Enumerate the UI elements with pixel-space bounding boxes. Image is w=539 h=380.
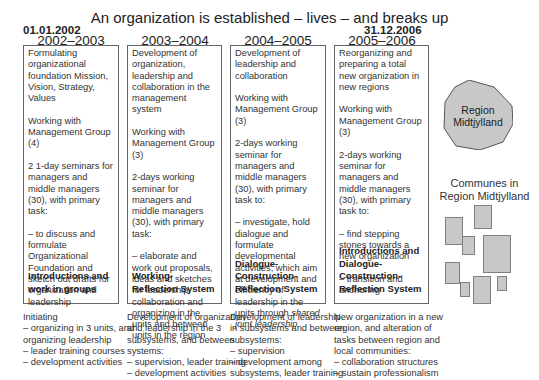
phase-paragraph: 2-days working seminar for managers and … [339, 150, 424, 218]
communes-label: Communes in Region Midtjylland [430, 177, 539, 203]
outcome-text: Development of leadership in subsystems … [230, 312, 334, 380]
outcome-line: systems: [127, 346, 231, 357]
outcome-text: Development of organization and leadersh… [127, 312, 231, 380]
phase-paragraph: Development of organization, leadership … [132, 48, 217, 116]
region-label-line: Region [443, 104, 513, 116]
phase-box: Development of leadership and collaborat… [230, 45, 326, 304]
outcome-line: – supervision [230, 346, 334, 357]
outcome-line: – collaboration structures [334, 357, 438, 368]
phase-paragraph: – to discuss and formulate Organizationa… [28, 229, 114, 308]
phase-paragraph: Development of leadership and collaborat… [235, 48, 321, 82]
system-label: Introductions and work in groups [28, 270, 115, 295]
commune-square-icon [445, 262, 460, 284]
commune-square-icon [473, 276, 491, 304]
phase-paragraph: Formulating organizational foundation Mi… [28, 48, 114, 104]
outcome-line: – development among [230, 357, 334, 368]
commune-square-icon [462, 236, 475, 255]
outcome-line: tasks between region and [334, 335, 438, 346]
phase-paragraph: Working with Management Group (3) [132, 127, 217, 161]
outcome-line: subsystems, leader training [230, 368, 334, 379]
outcome-text: Initiating – organizing in 3 units, and … [23, 312, 127, 368]
phase-box: Development of organization, leadership … [127, 45, 222, 304]
communes-label-line: Communes in [430, 177, 539, 190]
outcome-line: – sustain professionalism [334, 368, 438, 379]
outcome-line: Development of leadership [230, 312, 334, 323]
phase-paragraph: Working with Management Group (3) [339, 104, 424, 138]
phase-paragraph: Working with Management Group (4) [28, 116, 114, 150]
outcome-line: Initiating [23, 312, 127, 323]
outcome-line: – supervision, leader training [127, 357, 231, 368]
commune-square-icon [460, 282, 470, 297]
outcome-text: New organization in a new region, and al… [334, 312, 438, 380]
phase-paragraph: Reorganizing and preparing a total new o… [339, 48, 424, 93]
commune-square-icon [497, 276, 507, 291]
region-label-line: Midtjylland [443, 116, 513, 128]
outcome-line: – development activities [127, 368, 231, 379]
outcome-line: – development activities [23, 357, 127, 368]
phase-paragraph: Working with Management Group (3) [235, 93, 321, 127]
outcome-line: local communities: [334, 346, 438, 357]
system-label: Working-Reflection System [132, 270, 218, 295]
outcome-line: – leader training courses [23, 346, 127, 357]
outcome-line: in subsystems and between [230, 323, 334, 334]
outcome-line: and leadership in the 3 [127, 323, 231, 334]
system-label: Dialogue-Construction-Reflection System [235, 258, 322, 296]
phase-box: Formulating organizational foundation Mi… [23, 45, 119, 304]
commune-square-icon [474, 205, 492, 229]
commune-square-icon [445, 217, 463, 245]
outcome-line: New organization in a new [334, 312, 438, 323]
outcome-line: subsystems: [230, 335, 334, 346]
diagram-title: An organization is established – lives –… [0, 9, 539, 26]
outcome-line: Development of organization [127, 312, 231, 323]
outcome-line: region, and alteration of [334, 323, 438, 334]
system-label: Introductions and Dialogue-Construction-… [339, 245, 425, 295]
outcome-line: subsystems, and between [127, 335, 231, 346]
outcome-line: – organizing in 3 units, and [23, 323, 127, 334]
outcome-line: organizing leadership [23, 335, 127, 346]
phase-box: Reorganizing and preparing a total new o… [334, 45, 429, 304]
phase-paragraph: 2-days working seminar for managers and … [235, 138, 321, 206]
phase-paragraph: 2 1-day seminars for managers and middle… [28, 161, 114, 217]
phase-paragraph: 2-days working seminar for managers and … [132, 172, 217, 240]
communes-label-line: Region Midtjylland [430, 190, 539, 203]
commune-square-icon [483, 235, 511, 273]
region-label: Region Midtjylland [443, 104, 513, 128]
